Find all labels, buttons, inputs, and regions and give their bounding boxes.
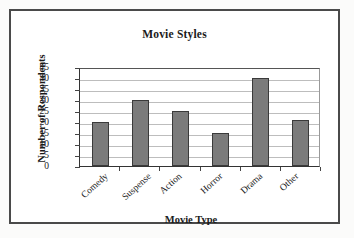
bar-other bbox=[292, 120, 309, 166]
y-tick-mark bbox=[75, 79, 80, 80]
scanned-page-background: Movie Styles Number of Respondents Movie… bbox=[0, 0, 354, 238]
y-tick-label: 0 bbox=[9, 162, 49, 172]
y-tick-mark bbox=[75, 112, 80, 113]
y-tick-label: 45 bbox=[9, 63, 49, 73]
y-tick-label: 5 bbox=[9, 151, 49, 161]
y-tick-label: 25 bbox=[9, 107, 49, 117]
y-tick-label: 35 bbox=[9, 85, 49, 95]
gridline bbox=[80, 146, 319, 147]
x-tick-mark bbox=[200, 167, 201, 171]
y-tick-label: 15 bbox=[9, 129, 49, 139]
y-tick-label: 10 bbox=[9, 140, 49, 150]
y-tick-mark bbox=[75, 123, 80, 124]
y-tick-mark bbox=[75, 145, 80, 146]
x-tick-label-other: Other bbox=[277, 171, 300, 193]
y-tick-mark bbox=[75, 90, 80, 91]
chart-title: Movie Styles bbox=[11, 28, 338, 40]
x-tick-mark bbox=[159, 167, 160, 171]
x-tick-mark bbox=[280, 167, 281, 171]
y-tick-mark bbox=[75, 167, 80, 168]
bar-drama bbox=[252, 78, 269, 166]
y-tick-mark bbox=[75, 134, 80, 135]
x-tick-label-horror: Horror bbox=[198, 171, 224, 196]
bar-horror bbox=[212, 133, 229, 166]
gridline bbox=[80, 113, 319, 114]
x-tick-mark bbox=[240, 167, 241, 171]
x-tick-label-suspense: Suspense bbox=[120, 171, 153, 202]
gridline bbox=[80, 80, 319, 81]
y-tick-label: 40 bbox=[9, 74, 49, 84]
gridline bbox=[80, 91, 319, 92]
y-tick-label: 30 bbox=[9, 96, 49, 106]
x-tick-label-action: Action bbox=[158, 171, 184, 196]
chart-figure-border: Movie Styles Number of Respondents Movie… bbox=[9, 9, 340, 224]
y-tick-mark bbox=[75, 68, 80, 69]
y-tick-mark bbox=[75, 156, 80, 157]
x-tick-label-drama: Drama bbox=[238, 171, 264, 196]
y-tick-label: 20 bbox=[9, 118, 49, 128]
gridline bbox=[80, 102, 319, 103]
bar-comedy bbox=[92, 122, 109, 166]
x-tick-mark bbox=[320, 167, 321, 171]
x-tick-mark bbox=[119, 167, 120, 171]
gridline bbox=[80, 157, 319, 158]
gridline bbox=[80, 124, 319, 125]
plot-area bbox=[79, 68, 320, 167]
bar-suspense bbox=[132, 100, 149, 166]
x-tick-label-comedy: Comedy bbox=[79, 171, 110, 200]
gridline bbox=[80, 135, 319, 136]
y-tick-mark bbox=[75, 101, 80, 102]
x-axis-title: Movie Type bbox=[66, 214, 316, 225]
bar-action bbox=[172, 111, 189, 166]
